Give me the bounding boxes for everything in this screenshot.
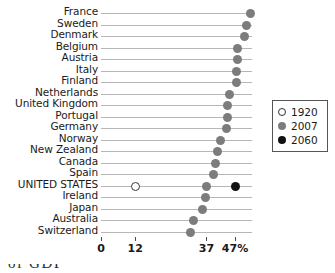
row-label: Spain <box>0 167 98 178</box>
row-guide-line <box>101 232 252 233</box>
chart-legend: 1920 2007 2060 <box>272 100 328 152</box>
data-point-2007[interactable] <box>242 21 251 30</box>
caption-text: of GDP <box>8 264 64 272</box>
axis-tick-label: 12 <box>128 242 143 255</box>
row-guide-line <box>101 186 252 187</box>
data-point-2007[interactable] <box>198 205 207 214</box>
data-point-2007[interactable] <box>233 44 242 53</box>
legend-item-1920: 1920 <box>278 105 322 119</box>
legend-swatch-1920-icon <box>278 108 286 116</box>
clipped-caption: of GDP <box>0 264 335 273</box>
row-label: Italy <box>0 64 98 75</box>
row-guide-line <box>101 140 252 141</box>
row-label: France <box>0 6 98 17</box>
row-label: United Kingdom <box>0 98 98 109</box>
data-point-2007[interactable] <box>209 170 218 179</box>
row-guide-line <box>101 209 252 210</box>
legend-label-1920: 1920 <box>291 106 318 118</box>
data-point-2007[interactable] <box>216 136 225 145</box>
row-guide-line <box>101 163 252 164</box>
dot-plot-chart: FranceSwedenDenmarkBelgiumAustriaItalyFi… <box>0 0 335 273</box>
row-label: Germany <box>0 121 98 132</box>
data-point-1920[interactable] <box>131 182 140 191</box>
row-guide-line <box>101 174 252 175</box>
row-guide-line <box>101 71 252 72</box>
row-label: New Zealand <box>0 144 98 155</box>
axis-tick-label: 37 <box>199 242 214 255</box>
data-point-2007[interactable] <box>189 216 198 225</box>
axis-tick-label: 0 <box>97 242 105 255</box>
data-point-2007[interactable] <box>201 193 210 202</box>
row-guide-line <box>101 25 252 26</box>
legend-item-2060: 2060 <box>278 133 322 147</box>
row-label: Australia <box>0 213 98 224</box>
row-guide-line <box>101 197 252 198</box>
row-guide-line <box>101 48 252 49</box>
legend-label-2060: 2060 <box>291 134 318 146</box>
data-point-2007[interactable] <box>222 124 231 133</box>
row-guide-line <box>101 220 252 221</box>
data-point-2007[interactable] <box>246 9 255 18</box>
row-label: Austria <box>0 52 98 63</box>
row-label: Denmark <box>0 29 98 40</box>
row-label: UNITED STATES <box>0 179 98 190</box>
data-point-2007[interactable] <box>232 78 241 87</box>
x-axis: 0123747% <box>0 237 335 263</box>
row-guide-line <box>101 36 252 37</box>
legend-swatch-2007-icon <box>278 122 286 130</box>
axis-tick-label: 47% <box>222 242 248 255</box>
axis-tick-mark <box>235 237 236 241</box>
data-point-2007[interactable] <box>202 182 211 191</box>
data-point-2007[interactable] <box>186 228 195 237</box>
axis-tick-mark <box>206 237 207 241</box>
data-point-2007[interactable] <box>223 101 232 110</box>
axis-tick-mark <box>135 237 136 241</box>
data-point-2007[interactable] <box>213 147 222 156</box>
row-label: Norway <box>0 133 98 144</box>
legend-item-2007: 2007 <box>278 119 322 133</box>
row-label: Sweden <box>0 18 98 29</box>
row-guide-line <box>101 82 252 83</box>
row-guide-line <box>101 59 252 60</box>
row-label: Canada <box>0 156 98 167</box>
row-guide-line <box>101 13 252 14</box>
row-guide-line <box>101 151 252 152</box>
row-label: Belgium <box>0 41 98 52</box>
row-label: Portugal <box>0 110 98 121</box>
axis-tick-mark <box>101 237 102 241</box>
data-point-2007[interactable] <box>223 113 232 122</box>
data-point-2007[interactable] <box>240 32 249 41</box>
row-label: Ireland <box>0 190 98 201</box>
legend-label-2007: 2007 <box>291 120 318 132</box>
data-point-2060[interactable] <box>231 182 240 191</box>
row-label: Finland <box>0 75 98 86</box>
data-point-2007[interactable] <box>211 159 220 168</box>
data-point-2007[interactable] <box>233 55 242 64</box>
row-label: Switzerland <box>0 225 98 236</box>
data-point-2007[interactable] <box>225 90 234 99</box>
data-point-2007[interactable] <box>232 67 241 76</box>
row-label: Japan <box>0 202 98 213</box>
legend-swatch-2060-icon <box>278 136 286 144</box>
row-label: Netherlands <box>0 87 98 98</box>
